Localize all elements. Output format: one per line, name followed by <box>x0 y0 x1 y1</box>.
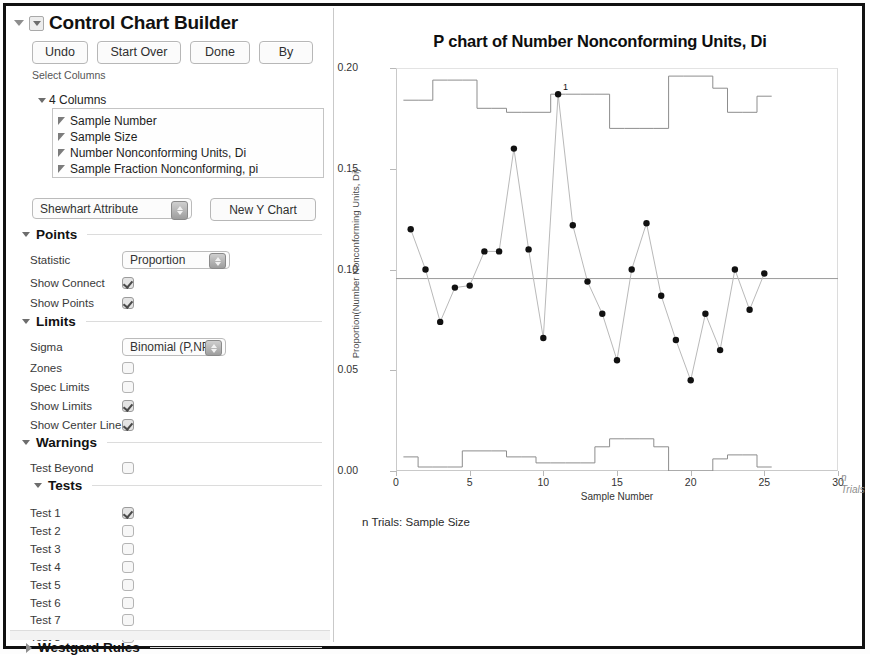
test-7-checkbox[interactable] <box>122 614 134 626</box>
data-point <box>643 220 649 226</box>
x-tick-label: 15 <box>597 476 637 488</box>
columns-collapse-icon[interactable] <box>38 98 46 103</box>
x-tick-mark <box>838 471 839 476</box>
test-2-checkbox[interactable] <box>122 525 134 537</box>
limits-collapse-icon[interactable] <box>22 319 30 324</box>
westgard-section-label: Westgard Rules <box>38 640 140 655</box>
data-point <box>408 226 414 232</box>
done-button[interactable]: Done <box>190 41 250 64</box>
data-point <box>673 337 679 343</box>
start-over-button[interactable]: Start Over <box>97 41 181 64</box>
tests-section-header[interactable]: Tests <box>34 478 322 493</box>
test-1-label: Test 1 <box>30 507 122 519</box>
show-limits-checkbox[interactable] <box>122 400 134 412</box>
points-section-header[interactable]: Points <box>22 227 322 242</box>
data-point <box>599 311 605 317</box>
test-2-label: Test 2 <box>30 525 122 537</box>
spec-limits-label: Spec Limits <box>30 381 122 393</box>
sigma-label: Sigma <box>30 341 122 353</box>
x-axis-label: Sample Number <box>396 491 838 502</box>
statistic-value: Proportion <box>130 253 185 267</box>
zones-row: Zones <box>30 359 330 377</box>
show-limits-label: Show Limits <box>30 400 122 412</box>
divider <box>150 647 322 648</box>
statistic-label: Statistic <box>30 254 122 266</box>
x-tick-label: 20 <box>671 476 711 488</box>
show-center-line-checkbox[interactable] <box>122 419 134 431</box>
data-point <box>702 311 708 317</box>
chart-type-select[interactable]: Shewhart Attribute <box>32 198 192 219</box>
test-4-checkbox[interactable] <box>122 561 134 573</box>
list-item[interactable]: Sample Fraction Nonconforming, pi <box>58 161 318 177</box>
chart-panel: P chart of Number Nonconforming Units, D… <box>336 8 864 642</box>
column-label: Sample Number <box>70 113 157 129</box>
collapse-triangle-icon[interactable] <box>14 20 24 26</box>
data-point <box>688 377 694 383</box>
new-y-chart-button[interactable]: New Y Chart <box>210 198 316 221</box>
columns-list[interactable]: Sample Number Sample Size Number Nonconf… <box>52 108 324 178</box>
warnings-section-header[interactable]: Warnings <box>22 435 322 450</box>
warnings-collapse-icon[interactable] <box>22 440 30 445</box>
limits-section-header[interactable]: Limits <box>22 314 322 329</box>
show-connect-checkbox[interactable] <box>122 277 134 289</box>
data-point <box>614 357 620 363</box>
tests-collapse-icon[interactable] <box>34 483 42 488</box>
columns-group-header[interactable]: 4 Columns <box>38 93 106 107</box>
select-columns-label: Select Columns <box>32 69 106 81</box>
y-tick-label: 0.00 <box>298 464 358 476</box>
column-label: Sample Size <box>70 129 137 145</box>
data-point <box>570 222 576 228</box>
tests-section-label: Tests <box>48 478 82 493</box>
test-beyond-row: Test Beyond <box>30 459 330 477</box>
continuous-column-icon <box>58 133 65 141</box>
undo-button[interactable]: Undo <box>32 41 88 64</box>
westgard-section-header[interactable]: Westgard Rules <box>26 640 322 655</box>
n-trials-annotation: nTrials <box>841 472 870 496</box>
page-title: Control Chart Builder <box>49 12 238 34</box>
test-3-checkbox[interactable] <box>122 543 134 555</box>
data-point <box>467 282 473 288</box>
test-3-label: Test 3 <box>30 543 122 555</box>
data-point <box>584 278 590 284</box>
test-7-label: Test 7 <box>30 614 122 626</box>
y-tick-label: 0.15 <box>298 162 358 174</box>
show-connect-label: Show Connect <box>30 277 122 289</box>
stepper-icon[interactable] <box>171 201 188 220</box>
window-titlebar: Control Chart Builder <box>14 12 238 34</box>
divider <box>107 442 322 443</box>
test-5-checkbox[interactable] <box>122 579 134 591</box>
column-label: Number Nonconforming Units, Di <box>70 145 246 161</box>
statistic-row: Statistic Proportion <box>30 251 330 269</box>
show-points-label: Show Points <box>30 297 122 309</box>
ucl-step-line <box>403 76 771 128</box>
x-tick-mark <box>764 471 765 476</box>
list-item[interactable]: Number Nonconforming Units, Di <box>58 145 318 161</box>
spec-limits-checkbox[interactable] <box>122 381 134 393</box>
data-point <box>422 266 428 272</box>
sigma-select[interactable]: Binomial (P,NP) <box>122 338 226 356</box>
horizontal-scrollbar[interactable] <box>10 630 330 640</box>
out-of-control-label: 1 <box>563 82 568 92</box>
zones-checkbox[interactable] <box>122 362 134 374</box>
test-6-checkbox[interactable] <box>122 597 134 609</box>
data-point <box>555 91 561 97</box>
data-point <box>437 319 443 325</box>
statistic-select[interactable]: Proportion <box>122 251 230 269</box>
data-point <box>540 335 546 341</box>
y-tick-label: 0.05 <box>298 363 358 375</box>
disclosure-box-icon[interactable] <box>29 16 44 31</box>
list-item[interactable]: Sample Number <box>58 113 318 129</box>
points-collapse-icon[interactable] <box>22 232 30 237</box>
westgard-expand-icon[interactable] <box>26 643 32 653</box>
data-point <box>658 293 664 299</box>
columns-group-label: 4 Columns <box>49 93 106 107</box>
stepper-icon[interactable] <box>209 253 226 269</box>
list-item[interactable]: Sample Size <box>58 129 318 145</box>
show-points-checkbox[interactable] <box>122 297 134 309</box>
x-tick-mark <box>691 471 692 476</box>
toolbar: Undo Start Over Done By <box>32 41 313 64</box>
test-1-checkbox[interactable] <box>122 507 134 519</box>
test-beyond-checkbox[interactable] <box>122 462 134 474</box>
stepper-icon[interactable] <box>205 340 222 356</box>
